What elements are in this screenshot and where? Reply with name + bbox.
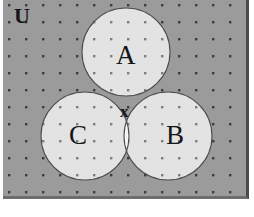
venn-circles-graphic bbox=[3, 0, 249, 199]
universal-set-region: U A C B x bbox=[3, 0, 249, 199]
set-a-label: A bbox=[116, 42, 136, 69]
set-c-label: C bbox=[69, 122, 87, 149]
venn-diagram-figure: U A C B x bbox=[0, 0, 254, 217]
element-x-label: x bbox=[120, 103, 129, 120]
universe-label: U bbox=[14, 5, 30, 27]
set-b-label: B bbox=[166, 122, 184, 149]
